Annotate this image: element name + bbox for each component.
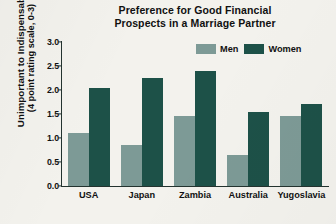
bar-group <box>62 42 115 186</box>
bar-women-usa <box>89 88 110 186</box>
y-axis-title: Unimportant to Indispensable (4 point ra… <box>6 0 46 133</box>
x-axis-tick-label: Japan <box>129 190 156 200</box>
legend-item-men: Men <box>196 44 238 54</box>
bar-men-japan <box>121 145 142 186</box>
chart-title-line-2: Prospects in a Marriage Partner <box>60 17 330 30</box>
legend-label-women: Women <box>268 44 301 54</box>
y-axis-title-line-2: (4 point rating scale, 0-3) <box>26 0 37 127</box>
bar-group <box>168 42 221 186</box>
bar-men-australia <box>227 155 248 186</box>
chart-legend: Men Women <box>196 44 301 54</box>
chart-title: Preference for Good Financial Prospects … <box>60 4 330 29</box>
bar-women-japan <box>142 78 163 186</box>
bar-women-australia <box>248 112 269 186</box>
x-axis-tick-label: Yugoslavia <box>277 190 325 200</box>
bar-chart: Preference for Good Financial Prospects … <box>0 0 336 224</box>
x-axis-tick-label: USA <box>79 190 98 200</box>
chart-title-line-1: Preference for Good Financial <box>60 4 330 17</box>
bar-group <box>115 42 168 186</box>
x-axis-tick-label: Zambia <box>179 190 211 200</box>
bar-men-zambia <box>174 116 195 186</box>
legend-item-women: Women <box>244 44 301 54</box>
bar-women-zambia <box>195 71 216 186</box>
legend-label-men: Men <box>220 44 238 54</box>
bar-women-yugoslavia <box>301 104 322 186</box>
bar-group <box>275 42 328 186</box>
x-axis-tick-label: Australia <box>229 190 268 200</box>
bar-men-usa <box>68 133 89 186</box>
plot-area: 3.02.52.01.51.00.50.0 <box>62 42 328 186</box>
bar-group <box>222 42 275 186</box>
legend-swatch-men-icon <box>196 44 216 54</box>
y-axis-title-line-1: Unimportant to Indispensable <box>15 0 26 127</box>
bar-men-yugoslavia <box>280 116 301 186</box>
legend-swatch-women-icon <box>244 44 264 54</box>
x-axis-line <box>61 186 329 187</box>
